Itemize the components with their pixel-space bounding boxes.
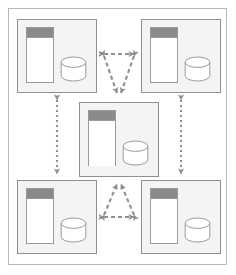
window-titlebar <box>151 28 177 38</box>
application-window <box>150 188 178 244</box>
database-cylinder-icon <box>122 140 149 166</box>
node-top-left[interactable] <box>17 19 97 93</box>
window-titlebar <box>27 28 53 38</box>
window-titlebar <box>89 111 115 121</box>
window-titlebar <box>151 189 177 199</box>
node-center[interactable] <box>79 102 159 177</box>
application-window <box>26 27 54 83</box>
window-body <box>151 199 177 243</box>
window-body <box>27 199 53 243</box>
diagram-canvas <box>0 0 236 275</box>
node-top-right[interactable] <box>141 19 221 93</box>
application-window <box>26 188 54 244</box>
application-window <box>88 110 116 166</box>
database-cylinder-icon <box>184 217 211 243</box>
database-cylinder-icon <box>60 217 87 243</box>
window-body <box>27 38 53 82</box>
node-bottom-right[interactable] <box>141 180 221 254</box>
application-window <box>150 27 178 83</box>
window-titlebar <box>27 189 53 199</box>
window-body <box>89 121 115 166</box>
window-body <box>151 38 177 82</box>
database-cylinder-icon <box>60 56 87 82</box>
node-bottom-left[interactable] <box>17 180 97 254</box>
database-cylinder-icon <box>184 56 211 82</box>
